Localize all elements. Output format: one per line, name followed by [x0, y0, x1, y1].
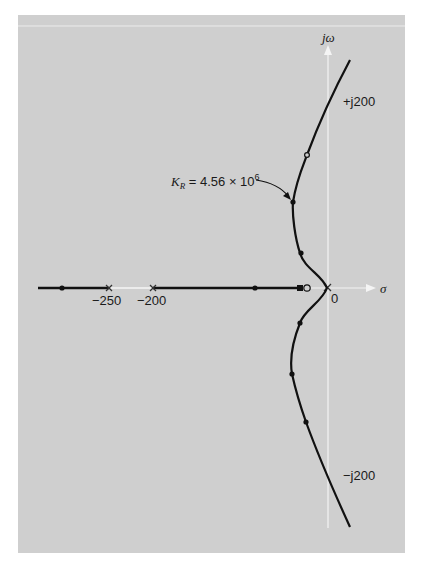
gain-point-kr	[290, 199, 295, 204]
tick-label-plus-j200: +j200	[343, 94, 375, 109]
breakaway-marker	[297, 285, 303, 291]
gain-point	[59, 285, 64, 290]
origin-label: 0	[331, 291, 338, 306]
gain-point	[298, 250, 303, 255]
tick-label-minus-200: −200	[137, 293, 166, 308]
tick-label-minus-j200: −j200	[343, 468, 375, 483]
imag-axis-label: jω	[320, 30, 335, 45]
gain-point	[303, 419, 308, 424]
real-axis-label: σ	[380, 281, 387, 296]
root-locus-figure: σ jω 0 −250 −200 +j200 −j200 KR = 4.56 ×…	[0, 0, 421, 566]
gain-point	[289, 371, 294, 376]
gain-point	[305, 153, 310, 158]
tick-label-minus-250: −250	[92, 293, 121, 308]
zero-marker-icon	[304, 285, 310, 291]
gain-point	[297, 320, 302, 325]
gain-point	[252, 285, 257, 290]
